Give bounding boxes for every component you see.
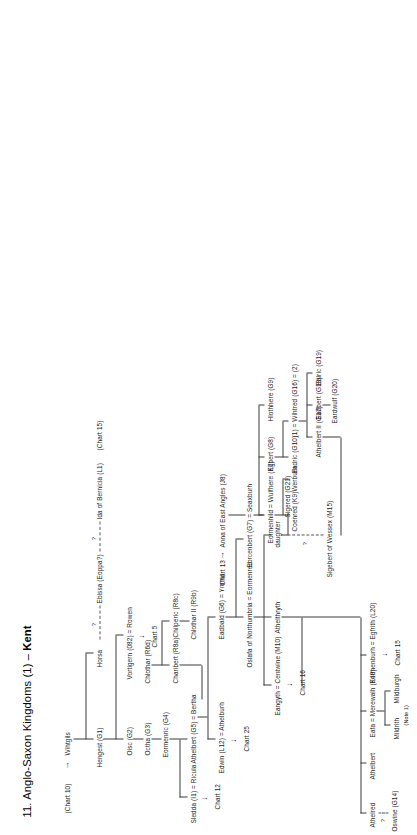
connector-athelburh-stem — [207, 738, 215, 739]
connector-eadbert-stem — [306, 404, 312, 405]
connector-horsa-stem — [85, 652, 93, 653]
connector-athelthryth-stem — [263, 616, 271, 617]
connector-athelred-stem — [360, 812, 366, 813]
connector-hengest-children — [103, 738, 115, 739]
connector-octha-eormenric — [151, 738, 161, 739]
node-chart25-ref[interactable]: Chart 25 — [242, 725, 249, 751]
connector-eafa-children — [376, 710, 384, 711]
node-athelred: Athelred — [368, 802, 375, 827]
connector-wihtred-stem — [282, 420, 288, 421]
connector-oisc-vortigern-bar — [115, 635, 116, 739]
node-ealric: Ealric (G19) — [314, 349, 321, 385]
connector-sledda-athelbert-bar — [179, 739, 180, 797]
connector-mildburgh-stem — [384, 690, 390, 691]
connector-athelbert-children — [197, 716, 207, 717]
question-mark-sigebert: ? — [300, 542, 307, 545]
connector-eadric-stem — [282, 456, 288, 457]
connector-coenred-werburh-bar — [282, 479, 283, 515]
connector-eormenric-children — [169, 738, 179, 739]
node-daughter: daughter — [273, 521, 280, 547]
node-edwin-athelburh: Edwin (L12) = Athelburh — [217, 702, 224, 773]
connector-oisc-octha — [133, 738, 143, 739]
connector-charibert-stem — [161, 664, 169, 665]
connector-oisc-stem — [115, 738, 123, 739]
connector-coenred-stem — [282, 514, 288, 515]
node-sigered: Sigered (G21) — [283, 475, 290, 517]
connector-eadbald-stem — [207, 616, 215, 617]
connector-eormenred-children — [253, 616, 263, 617]
page-title: 11. Anglo-Saxon Kingdoms (1) – Kent — [20, 625, 32, 817]
node-horsa: Horsa — [95, 649, 102, 667]
node-eorcenbert-seaxburh: Eorcenbert (G7) = Seaxburh — [245, 483, 252, 567]
connector-athelbertii-daughter-bar — [340, 437, 341, 535]
node-eormenric: Eormenric (G4) — [161, 712, 168, 757]
connector-hengest-horsa-bar — [85, 653, 86, 739]
connector-athelbert-plain-stem — [360, 762, 366, 763]
node-chart15-ref[interactable]: (Chart 15) — [95, 420, 102, 450]
connector-horsa-ebissa-dashed — [99, 605, 100, 639]
node-ida-bernicia: Ida of Bernicia (L1) — [95, 462, 102, 519]
arrow-icon-chart16: → — [285, 679, 293, 687]
connector-chlothar-children — [151, 664, 161, 665]
node-sledda-ricula: Sledda (I1) = Ricula — [189, 764, 196, 823]
connector-chilperic-stem — [161, 620, 169, 621]
connector-eormenred-children-bar — [263, 535, 264, 685]
connector-athelbert-stem — [179, 738, 187, 739]
connector-lower-siblings-bar — [360, 617, 361, 813]
connector-athelbertii-down — [322, 436, 340, 437]
connector-chilperic-chlotharii — [179, 620, 189, 621]
connector-mildrith-stem — [384, 724, 390, 725]
node-ebissa: Ebissa (Eoppa?) — [95, 554, 102, 603]
node-chart10-ref[interactable]: (Chart 10) — [63, 783, 70, 813]
node-egbert: Egbert (G8) — [266, 436, 273, 471]
title-prefix: 11. Anglo-Saxon Kingdoms (1) – — [20, 650, 32, 817]
node-wihtred: (1) = Wihtred (G16) = (2) — [290, 363, 297, 437]
connector-athelred-oswine-dashed — [378, 812, 388, 813]
node-chlothar-r6d: Chlothar (R6d) — [143, 639, 150, 683]
node-athelbert-plain: Athelbert — [368, 752, 375, 779]
node-eormenhild-wulfhere: Eormenhild = Wulfhere (K7) — [266, 461, 273, 543]
node-coenred: Coenred (K9) — [290, 491, 297, 531]
connector-eormenhild-children — [274, 514, 282, 515]
connector-eadbert-eardwulf — [322, 404, 330, 405]
connector-eangyth-stem — [263, 684, 271, 685]
connector-egbert-children — [274, 456, 282, 457]
node-anna-east-angles: Anna of East Angles (J8) — [218, 474, 225, 547]
node-oisc: Oisc (G2) — [125, 727, 132, 756]
connector-wihtred-children — [298, 420, 306, 421]
connector-athelburh-eadbald-bar — [207, 617, 208, 739]
node-octha: Octha (G3) — [143, 722, 150, 755]
connector-eormenred-eorcenbert-bar — [235, 539, 236, 617]
connector-mildrith-mildburgh-bar — [384, 691, 385, 725]
node-eardwulf: Eardwulf (G20) — [330, 378, 337, 423]
node-chart13-ref[interactable]: Chart 13 — [218, 559, 225, 585]
connector-wihtgils-down — [73, 738, 85, 739]
connector-eormenred-stem — [235, 616, 243, 617]
connector-sigebert-dashed — [287, 534, 323, 535]
connector-sledda-stem — [179, 796, 187, 797]
arrow-icon-chart25: → — [229, 735, 237, 743]
node-sigebert-wessex: Sigebert of Wessex (M15) — [325, 500, 332, 577]
connector-eorcenbert-children-bar — [258, 405, 259, 515]
node-chart15b-ref[interactable]: Chart 15 — [393, 639, 400, 665]
connector-eorcenbert-stem — [235, 538, 243, 539]
question-mark-ebissa-ida: ? — [89, 537, 96, 540]
node-athelthryth: Athelthryth — [273, 601, 280, 633]
connector-anna-seaxburh — [228, 514, 245, 515]
arrow-icon-chart15b: → — [380, 649, 388, 657]
connector-athelbertii-stem — [306, 436, 312, 437]
connector-lower-left-bar — [301, 617, 302, 685]
connector-hengest-stem — [85, 738, 93, 739]
node-oslafa-eormenred: Oslafa of Northumbria = Eormenred — [245, 561, 252, 667]
connector-charibert-bertha — [179, 664, 201, 665]
connector-werburh-stem — [282, 478, 288, 479]
arrow-icon-chart12: → — [200, 793, 208, 801]
title-kingdom: Kent — [20, 625, 32, 650]
connector-daughter-down — [281, 534, 287, 535]
node-chilperic: Chilperic (R8c) — [171, 593, 178, 637]
node-hengest: Hengest (G1) — [95, 727, 102, 767]
connector-ealric-stem — [306, 372, 312, 373]
node-eadric: Eadric (G10) — [290, 435, 297, 473]
node-chart5-ref[interactable]: Chart 5 — [150, 625, 157, 647]
node-chart12-ref[interactable]: Chart 12 — [213, 783, 220, 809]
